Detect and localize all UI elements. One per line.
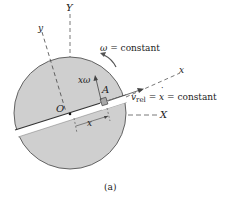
- x-axis-label: x: [179, 66, 184, 75]
- origin-label: O: [56, 104, 64, 114]
- figure-caption: (a): [104, 183, 116, 192]
- x-distance-label: x: [87, 119, 92, 128]
- vrel-rest: = constant: [164, 92, 217, 102]
- omega-rotation-arrow: [100, 52, 116, 67]
- vrel-constant-label: vrel = x = constant: [131, 93, 217, 102]
- vrel-subscript: rel: [136, 96, 146, 104]
- omega-constant-label: ω = constant: [100, 44, 160, 53]
- X-axis-label: X: [160, 110, 167, 120]
- omega-rest: = constant: [107, 43, 160, 53]
- vrel-eq: =: [146, 92, 159, 102]
- y-axis-label: y: [38, 24, 43, 33]
- x-omega-label: xω: [78, 76, 90, 85]
- Y-axis-label: Y: [66, 3, 73, 13]
- origin-point: [69, 113, 72, 116]
- point-A-label: A: [102, 85, 109, 95]
- vrel-xdot: x: [159, 92, 164, 102]
